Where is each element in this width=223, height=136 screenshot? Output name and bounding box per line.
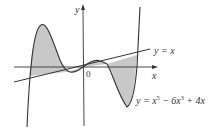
diagram-canvas: y x 0 y = x y = x5 − 6x3 + 4x — [0, 0, 223, 136]
line-label: y = x — [153, 45, 175, 56]
y-axis-label: y — [74, 4, 80, 15]
shaded-region-left — [30, 24, 71, 76]
x-axis-arrow-icon — [152, 65, 158, 69]
x-axis-label: x — [151, 70, 157, 81]
origin-label: 0 — [86, 69, 91, 79]
curve-label: y = x5 − 6x3 + 4x — [135, 95, 206, 106]
y-axis-arrow-icon — [81, 4, 85, 10]
